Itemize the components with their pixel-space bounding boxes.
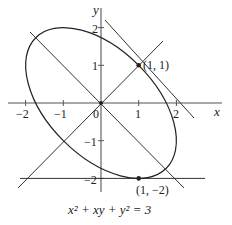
x-tick-label: 2 [173,107,179,121]
y-tick-label: −1 [84,135,97,149]
x-axis-label: x [213,104,220,119]
x-tick-label: 1 [135,107,141,121]
x-tick-label: −2 [16,107,29,121]
origin-point [99,101,103,105]
ellipse-diagram: −2 −1 0 1 2 2 1 −1 −2 x y (1, 1) (1, −2)… [0,0,232,225]
y-tick-label: 1 [92,59,98,73]
line-y-equals-x [18,41,163,188]
point-label-1-1: (1, 1) [143,58,169,72]
point-1-neg-2 [136,176,141,181]
point-1-1 [136,63,141,68]
equation-caption: x² + xy + y² = 3 [67,202,152,217]
point-label-1-neg-2: (1, −2) [136,183,169,197]
y-tick-label: 2 [92,22,98,36]
x-tick-label: 0 [93,107,99,121]
x-tick-label: −1 [54,107,67,121]
y-tick-label: −2 [84,173,97,187]
y-axis-label: y [91,2,99,17]
